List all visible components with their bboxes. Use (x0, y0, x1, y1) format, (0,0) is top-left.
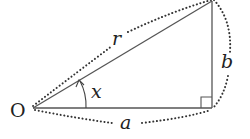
hypotenuse-line (33, 1, 212, 108)
hypotenuse-dotted-brace-upper (128, 0, 211, 32)
vertical-dotted-brace (214, 0, 230, 52)
angle-label: x (91, 80, 102, 102)
origin-label: O (10, 99, 26, 121)
right-angle-marker (201, 97, 212, 108)
vertical-side-label: b (221, 50, 233, 72)
hypotenuse-label: r (112, 27, 123, 49)
base-dotted-brace-right (142, 110, 211, 123)
right-triangle-diagram: O r b x a (0, 0, 250, 139)
angle-arc (80, 81, 86, 108)
horizontal-side-label: a (120, 111, 131, 133)
base-dotted-brace-left (35, 110, 112, 123)
vertical-dotted-brace-lower (213, 76, 228, 108)
